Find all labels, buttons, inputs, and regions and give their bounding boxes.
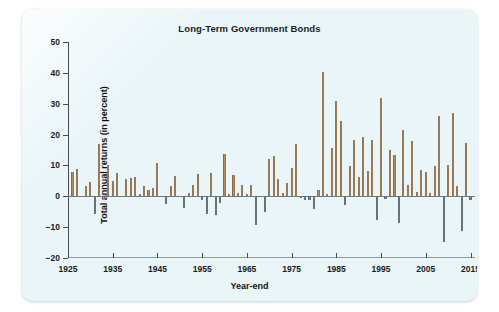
bar	[371, 140, 373, 196]
bar	[139, 194, 141, 197]
bar	[456, 186, 458, 196]
x-axis-tick-label: 1995	[372, 264, 391, 274]
bar	[215, 196, 217, 215]
bar	[107, 165, 109, 196]
bar	[188, 193, 190, 197]
bar	[264, 196, 266, 212]
bar	[201, 196, 203, 200]
bar	[219, 196, 221, 203]
bar	[206, 196, 208, 213]
x-axis-tick-label: 1935	[103, 264, 122, 274]
bar	[237, 193, 239, 197]
bar	[358, 177, 360, 196]
y-axis-tick	[63, 135, 68, 136]
bar	[402, 130, 404, 196]
x-axis-tick-label: 1965	[237, 264, 256, 274]
bar	[335, 101, 337, 197]
bar	[286, 183, 288, 197]
y-axis-tick-label: −20	[46, 253, 60, 263]
bar	[165, 196, 167, 204]
bar	[170, 186, 172, 196]
bar	[130, 178, 132, 196]
bar	[223, 154, 225, 197]
bar	[340, 121, 342, 197]
y-axis-line	[68, 42, 69, 258]
bar	[192, 185, 194, 196]
y-axis-tick-label: 0	[55, 191, 60, 201]
x-axis-tick	[426, 253, 427, 258]
bar	[98, 144, 100, 196]
x-axis-tick-label: 1975	[282, 264, 301, 274]
y-axis-tick	[63, 227, 68, 228]
y-axis-tick	[63, 104, 68, 105]
x-axis-tick	[157, 253, 158, 258]
bar	[246, 194, 248, 196]
bar	[161, 196, 163, 197]
bar	[398, 196, 400, 223]
chart-title: Long-Term Government Bonds	[22, 23, 477, 34]
y-axis-tick	[63, 73, 68, 74]
bar	[389, 150, 391, 197]
bar	[295, 144, 297, 196]
y-axis-tick	[63, 258, 68, 259]
bar	[304, 196, 306, 200]
bar	[116, 173, 118, 196]
bar	[344, 196, 346, 204]
bar	[367, 171, 369, 196]
bar	[121, 196, 123, 197]
chart-card: Long-Term Government Bonds Total annual …	[22, 9, 477, 301]
bar	[376, 196, 378, 220]
y-axis-tick	[63, 42, 68, 43]
x-axis-tick	[471, 253, 472, 258]
x-axis-line	[68, 257, 475, 258]
bar	[308, 196, 310, 200]
bar	[326, 194, 328, 196]
x-axis-tick	[292, 253, 293, 258]
bar	[420, 170, 422, 196]
bar	[469, 196, 471, 200]
bar	[380, 98, 382, 196]
bar	[255, 196, 257, 224]
x-axis-tick-label: 1945	[148, 264, 167, 274]
bar	[282, 193, 284, 196]
bar	[250, 185, 252, 196]
y-axis-tick-label: 30	[51, 99, 60, 109]
bar	[94, 196, 96, 213]
bar	[331, 148, 333, 196]
bar	[134, 177, 136, 196]
y-axis-tick-label: 50	[51, 37, 60, 47]
bar	[393, 155, 395, 197]
bar	[407, 185, 409, 196]
bar	[362, 137, 364, 197]
bar	[197, 174, 199, 196]
bar	[425, 172, 427, 196]
bar	[80, 196, 82, 197]
bar	[434, 166, 436, 197]
bar	[112, 181, 114, 196]
bar	[317, 190, 319, 196]
bar	[147, 190, 149, 196]
bar	[85, 186, 87, 196]
y-axis-tick-label: 10	[51, 160, 60, 170]
x-axis-tick-label: 1925	[59, 264, 78, 274]
bar	[438, 116, 440, 196]
x-axis-tick-label: 2005	[416, 264, 435, 274]
bar	[465, 143, 467, 196]
bar	[353, 140, 355, 196]
bar	[452, 113, 454, 197]
bar	[228, 194, 230, 197]
bar	[152, 188, 154, 197]
bar	[322, 72, 324, 197]
x-axis-tick	[381, 253, 382, 258]
bar	[143, 186, 145, 196]
x-axis-tick-label: 1985	[327, 264, 346, 274]
bar	[268, 159, 270, 196]
bar	[89, 182, 91, 197]
bar	[447, 165, 449, 196]
bar	[429, 193, 431, 197]
bar	[71, 172, 73, 196]
bar	[461, 196, 463, 230]
x-axis-tick-label: 2015	[461, 264, 477, 274]
y-axis-tick-label: 20	[51, 130, 60, 140]
bar	[300, 196, 302, 198]
